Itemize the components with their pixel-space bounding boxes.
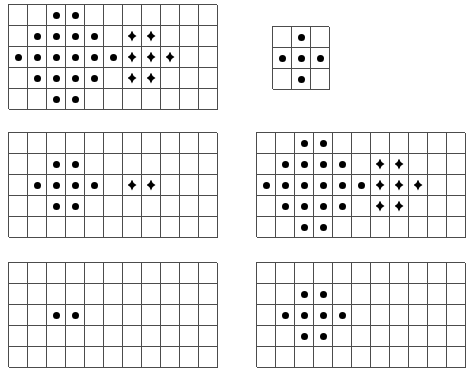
grid-cell[interactable]: [180, 26, 199, 47]
dot-marker-icon[interactable]: [85, 47, 104, 68]
diamond-marker-icon[interactable]: [142, 47, 161, 68]
grid-cell[interactable]: [180, 89, 199, 110]
grid-cell[interactable]: [66, 133, 85, 154]
grid-cell[interactable]: [447, 284, 466, 305]
grid-cell[interactable]: [180, 305, 199, 326]
grid-cell[interactable]: [199, 305, 218, 326]
grid-cell[interactable]: [161, 263, 180, 284]
grid-cell[interactable]: [161, 326, 180, 347]
grid-cell[interactable]: [371, 263, 390, 284]
grid-cell[interactable]: [123, 217, 142, 238]
grid-cell[interactable]: [199, 133, 218, 154]
dot-marker-icon[interactable]: [66, 26, 85, 47]
diamond-marker-icon[interactable]: [123, 47, 142, 68]
grid-cell[interactable]: [142, 5, 161, 26]
grid-cell[interactable]: [409, 347, 428, 368]
dot-marker-icon[interactable]: [314, 305, 333, 326]
grid-cell[interactable]: [104, 154, 123, 175]
grid-cell[interactable]: [314, 347, 333, 368]
grid-cell[interactable]: [66, 326, 85, 347]
dot-marker-icon[interactable]: [66, 89, 85, 110]
diamond-marker-icon[interactable]: [123, 175, 142, 196]
grid-cell[interactable]: [180, 47, 199, 68]
dot-marker-icon[interactable]: [47, 305, 66, 326]
diamond-marker-icon[interactable]: [371, 196, 390, 217]
grid-cell[interactable]: [28, 326, 47, 347]
grid-cell[interactable]: [409, 154, 428, 175]
grid-cell[interactable]: [390, 133, 409, 154]
grid-cell[interactable]: [123, 347, 142, 368]
grid-cell[interactable]: [180, 68, 199, 89]
grid-cell[interactable]: [85, 133, 104, 154]
diamond-marker-icon[interactable]: [123, 26, 142, 47]
grid-cell[interactable]: [371, 347, 390, 368]
grid-cell[interactable]: [161, 217, 180, 238]
dot-marker-icon[interactable]: [333, 175, 352, 196]
grid-cell[interactable]: [352, 133, 371, 154]
grid-cell[interactable]: [333, 326, 352, 347]
grid-cell[interactable]: [28, 284, 47, 305]
grid-cell[interactable]: [409, 284, 428, 305]
grid-cell[interactable]: [9, 133, 28, 154]
dot-marker-icon[interactable]: [257, 175, 276, 196]
dot-marker-icon[interactable]: [295, 284, 314, 305]
diamond-marker-icon[interactable]: [371, 154, 390, 175]
grid-cell[interactable]: [9, 326, 28, 347]
grid-cell[interactable]: [447, 133, 466, 154]
grid-cell[interactable]: [9, 284, 28, 305]
grid-cell[interactable]: [104, 89, 123, 110]
grid-cell[interactable]: [409, 133, 428, 154]
grid-cell[interactable]: [295, 347, 314, 368]
dot-marker-icon[interactable]: [66, 68, 85, 89]
grid-cell[interactable]: [371, 305, 390, 326]
dot-marker-icon[interactable]: [276, 305, 295, 326]
grid-cell[interactable]: [257, 196, 276, 217]
grid-cell[interactable]: [199, 26, 218, 47]
dot-marker-icon[interactable]: [295, 196, 314, 217]
dot-marker-icon[interactable]: [295, 217, 314, 238]
diamond-marker-icon[interactable]: [142, 26, 161, 47]
dot-marker-icon[interactable]: [66, 175, 85, 196]
grid-cell[interactable]: [104, 68, 123, 89]
grid-cell[interactable]: [9, 154, 28, 175]
grid-cell[interactable]: [123, 5, 142, 26]
grid-cell[interactable]: [409, 263, 428, 284]
grid-cell[interactable]: [142, 133, 161, 154]
dot-marker-icon[interactable]: [295, 326, 314, 347]
grid-cell[interactable]: [333, 263, 352, 284]
grid-cell[interactable]: [180, 326, 199, 347]
grid-cell[interactable]: [257, 217, 276, 238]
dot-marker-icon[interactable]: [66, 5, 85, 26]
grid-cell[interactable]: [199, 284, 218, 305]
grid-cell[interactable]: [257, 326, 276, 347]
grid-cell[interactable]: [142, 326, 161, 347]
grid-cell[interactable]: [142, 217, 161, 238]
dot-marker-icon[interactable]: [314, 133, 333, 154]
grid-cell[interactable]: [352, 284, 371, 305]
dot-marker-icon[interactable]: [314, 196, 333, 217]
dot-marker-icon[interactable]: [66, 196, 85, 217]
grid-cell[interactable]: [180, 5, 199, 26]
grid-cell[interactable]: [104, 284, 123, 305]
grid-cell[interactable]: [428, 347, 447, 368]
dot-marker-icon[interactable]: [292, 69, 311, 90]
grid-cell[interactable]: [123, 326, 142, 347]
grid-cell[interactable]: [161, 68, 180, 89]
grid-cell[interactable]: [9, 89, 28, 110]
grid-cell[interactable]: [28, 89, 47, 110]
grid-cell[interactable]: [142, 154, 161, 175]
grid-cell[interactable]: [199, 175, 218, 196]
dot-marker-icon[interactable]: [276, 154, 295, 175]
grid-cell[interactable]: [161, 305, 180, 326]
grid-cell[interactable]: [428, 326, 447, 347]
grid-cell[interactable]: [28, 305, 47, 326]
grid-cell[interactable]: [428, 263, 447, 284]
grid-cell[interactable]: [447, 326, 466, 347]
grid-cell[interactable]: [66, 217, 85, 238]
dot-marker-icon[interactable]: [47, 47, 66, 68]
grid-cell[interactable]: [123, 154, 142, 175]
dot-marker-icon[interactable]: [28, 175, 47, 196]
diamond-marker-icon[interactable]: [371, 175, 390, 196]
grid-cell[interactable]: [428, 305, 447, 326]
grid-cell[interactable]: [161, 89, 180, 110]
